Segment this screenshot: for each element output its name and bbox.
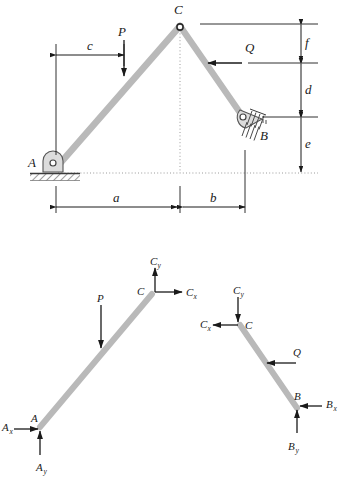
label-B-top: B xyxy=(260,128,268,143)
svg-text:A: A xyxy=(35,461,43,473)
svg-text:x: x xyxy=(207,324,212,333)
svg-text:x: x xyxy=(333,404,338,413)
fbd-label-P: P xyxy=(96,292,104,304)
dimension-f-d-e xyxy=(200,24,318,172)
fbd-label-Bx: B x xyxy=(326,398,338,413)
svg-text:y: y xyxy=(43,467,48,476)
svg-text:A: A xyxy=(1,421,9,433)
label-P-top: P xyxy=(117,24,126,39)
fbd-label-Ay: A y xyxy=(35,461,48,476)
fbd-label-B: B xyxy=(294,390,301,402)
svg-text:B: B xyxy=(288,440,295,452)
fbd-label-Cx-left: C x xyxy=(186,286,198,301)
svg-text:x: x xyxy=(9,427,14,436)
fbd-member-CB xyxy=(213,297,322,433)
label-A-top: A xyxy=(27,155,36,170)
dimension-a-b xyxy=(56,150,245,213)
member-AC xyxy=(56,26,180,168)
svg-text:y: y xyxy=(157,261,162,270)
label-C-top: C xyxy=(174,2,183,17)
fbd-label-By: B y xyxy=(288,440,300,455)
fbd-label-A: A xyxy=(30,412,38,424)
fbd-label-Cy-right: C y xyxy=(233,284,245,299)
fbd-label-C-right: C xyxy=(245,319,253,331)
fbd-label-Ax: A x xyxy=(1,421,14,436)
svg-text:x: x xyxy=(193,292,198,301)
figure-canvas: A B C P xyxy=(0,0,344,482)
label-c: c xyxy=(87,38,93,53)
svg-text:B: B xyxy=(326,398,333,410)
svg-text:y: y xyxy=(295,446,300,455)
svg-text:y: y xyxy=(240,290,245,299)
fbd-label-Cy-left: C y xyxy=(150,255,162,270)
fbd-label-C-left: C xyxy=(137,285,145,297)
pin-support-A xyxy=(30,151,80,181)
pin-joint-C xyxy=(177,24,183,30)
label-Q-top: Q xyxy=(245,40,255,55)
statics-figure: A B C P xyxy=(0,0,344,482)
label-e: e xyxy=(305,136,311,151)
member-CB xyxy=(180,26,243,117)
fbd-label-Q: Q xyxy=(293,346,301,358)
label-b: b xyxy=(210,190,217,205)
label-d: d xyxy=(305,82,312,97)
fbd-label-Cx-right: C x xyxy=(200,318,212,333)
label-f: f xyxy=(305,35,311,50)
label-a: a xyxy=(113,190,120,205)
